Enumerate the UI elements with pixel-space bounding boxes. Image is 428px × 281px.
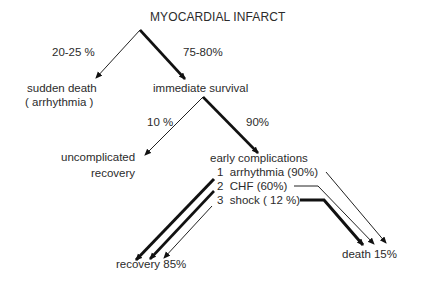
diagram-title: MYOCARDIAL INFARCT: [150, 11, 285, 24]
node-uncomplicated: uncomplicated: [61, 151, 135, 164]
complication-item: 2 CHF (60%): [217, 180, 287, 193]
node-sudden-death-cause: ( arrhythmia ): [25, 96, 93, 109]
percent-early-complications: 90%: [246, 116, 269, 129]
arrow-to-sudden-death: [96, 30, 140, 78]
complication-item: 3 shock ( 12 %): [217, 194, 300, 207]
node-death: death 15%: [342, 248, 397, 261]
complication-index: 1: [217, 166, 223, 178]
arrow-arrhythmia-to-death: [326, 172, 386, 243]
arrow-arrhythmia-to-recovery: [136, 179, 214, 260]
complication-label: arrhythmia (90%): [230, 166, 318, 178]
node-sudden-death: sudden death: [27, 82, 97, 95]
node-recovery: recovery 85%: [116, 258, 186, 271]
complication-item: 1 arrhythmia (90%): [217, 166, 318, 179]
complication-label: shock ( 12 %): [230, 194, 300, 206]
percent-immediate-survival: 75-80%: [183, 46, 223, 59]
arrow-shock-to-recovery: [164, 206, 212, 258]
node-immediate-survival: immediate survival: [153, 82, 248, 95]
arrow-to-immediate-survival: [140, 30, 185, 79]
complication-index: 2: [217, 180, 223, 192]
arrow-chf-to-recovery: [150, 191, 214, 259]
node-uncomplicated-recovery: recovery: [91, 167, 135, 180]
flow-arrows: [0, 0, 428, 281]
complication-label: CHF (60%): [230, 180, 288, 192]
percent-sudden-death: 20-25 %: [52, 46, 95, 59]
complication-index: 3: [217, 194, 223, 206]
percent-uncomplicated: 10 %: [147, 116, 173, 129]
node-early-complications: early complications: [210, 152, 308, 165]
